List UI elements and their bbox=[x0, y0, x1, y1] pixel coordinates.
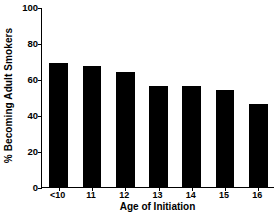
x-axis-title: Age of Initiation bbox=[41, 202, 274, 212]
y-axis-tick-label: 80 bbox=[27, 39, 38, 49]
bar bbox=[249, 104, 268, 187]
bar bbox=[149, 86, 168, 187]
y-axis-tick-label: 40 bbox=[27, 111, 38, 121]
x-axis-tick-label: <10 bbox=[50, 191, 65, 200]
x-axis-tick-label: 12 bbox=[119, 191, 129, 200]
y-axis-tick-mark bbox=[38, 116, 42, 117]
bar bbox=[116, 72, 135, 187]
bar bbox=[83, 66, 102, 187]
bars-layer bbox=[42, 8, 274, 187]
bar bbox=[182, 86, 201, 187]
y-axis-tick-mark bbox=[38, 44, 42, 45]
plot-area bbox=[41, 8, 274, 188]
y-axis-tick-label: 100 bbox=[22, 3, 38, 13]
y-axis-tick-labels: 020406080100 bbox=[18, 0, 40, 215]
x-axis-tick-label: 13 bbox=[152, 191, 162, 200]
y-axis-tick-mark bbox=[38, 80, 42, 81]
y-axis-title-text: % Becoming Adult Smokers bbox=[4, 27, 15, 162]
y-axis-tick-label: 20 bbox=[27, 147, 38, 157]
y-axis-tick-mark bbox=[38, 152, 42, 153]
x-axis-tick-label: 15 bbox=[219, 191, 229, 200]
x-axis-tick-label: 14 bbox=[186, 191, 196, 200]
x-axis-tick-label: 16 bbox=[252, 191, 262, 200]
bar bbox=[216, 90, 235, 187]
y-axis-tick-mark bbox=[38, 8, 42, 9]
bar-chart: % Becoming Adult Smokers 020406080100 <1… bbox=[0, 0, 279, 215]
y-axis-title: % Becoming Adult Smokers bbox=[0, 0, 18, 190]
x-axis-tick-label: 11 bbox=[86, 191, 96, 200]
y-axis-tick-label: 60 bbox=[27, 75, 38, 85]
bar bbox=[49, 63, 68, 187]
